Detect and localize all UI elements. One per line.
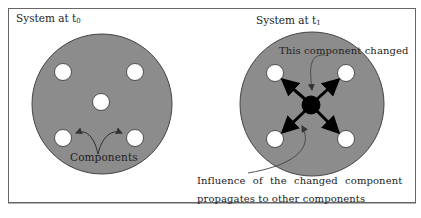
components-label: Components	[70, 151, 138, 163]
component-node	[93, 94, 110, 111]
title-text: System at t	[16, 12, 76, 24]
title-subscript: 0	[76, 17, 80, 25]
title-subscript: 1	[316, 19, 320, 27]
title-text: System at t	[256, 14, 316, 26]
component-node	[127, 130, 144, 147]
component-node	[338, 131, 355, 148]
changed-component-node	[302, 96, 320, 114]
panel-title-t1: System at t1	[256, 14, 321, 27]
panel-title-t0: System at t0	[16, 12, 81, 25]
component-node	[267, 65, 284, 82]
component-node	[267, 131, 284, 148]
influence-label-line2: propagates to other components	[197, 193, 365, 204]
component-node	[127, 64, 144, 81]
component-node	[338, 65, 355, 82]
component-node	[55, 130, 72, 147]
influence-label-line1: Influence of the changed component	[197, 175, 402, 186]
changed-component-label: This component changed	[279, 45, 409, 56]
component-node	[55, 64, 72, 81]
